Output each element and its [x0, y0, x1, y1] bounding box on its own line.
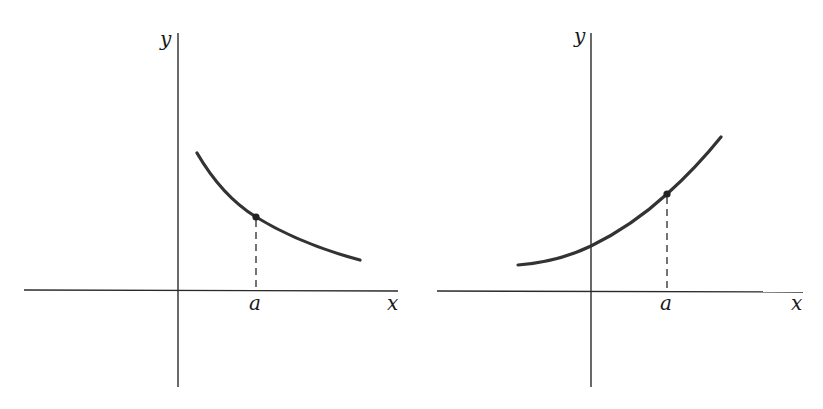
right-increasing-curve — [518, 137, 721, 265]
right-x-axis-label: x — [791, 291, 802, 315]
left-decreasing-curve — [197, 153, 360, 260]
left-y-axis-label: y — [159, 27, 172, 51]
left-graph: y a x — [24, 27, 398, 387]
left-marked-point — [252, 213, 259, 220]
diagram-canvas: y a x y a x — [0, 0, 823, 409]
right-graph: y a x — [437, 24, 803, 387]
left-point-a-label: a — [249, 291, 261, 315]
right-x-axis — [437, 291, 803, 292]
left-x-axis-label: x — [387, 291, 398, 315]
left-x-axis — [24, 290, 398, 291]
right-y-axis-label: y — [573, 24, 586, 48]
right-marked-point — [663, 190, 670, 197]
right-point-a-label: a — [660, 291, 672, 315]
